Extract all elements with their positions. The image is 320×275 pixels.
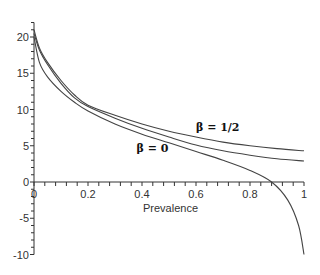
curves — [34, 30, 304, 255]
y-tick-label: 0 — [23, 176, 29, 188]
series-line — [34, 37, 304, 255]
x-tick-label: 0.8 — [242, 188, 257, 200]
y-tick-label: 20 — [17, 31, 29, 43]
x-tick-label: 0.4 — [134, 188, 149, 200]
y-tick-label: 15 — [17, 67, 29, 79]
x-tick-label: 0.6 — [188, 188, 203, 200]
x-tick-label: 0.2 — [80, 188, 95, 200]
y-tick-label: 10 — [17, 104, 29, 116]
x-axis-label: Prevalence — [143, 202, 198, 214]
y-tick-label: 5 — [23, 140, 29, 152]
x-tick-label: 0 — [31, 188, 37, 200]
chart: -10-50510152000.20.40.60.81 β = 1/2β = 0… — [0, 0, 320, 275]
series-annotation: β = 0 — [137, 142, 169, 155]
y-tick-label: -10 — [13, 249, 29, 261]
series-line — [34, 33, 304, 161]
axes — [30, 23, 304, 255]
series-annotation: β = 1/2 — [196, 121, 240, 134]
series-line — [34, 30, 304, 151]
y-tick-label: -5 — [19, 212, 29, 224]
x-tick-label: 1 — [301, 188, 307, 200]
